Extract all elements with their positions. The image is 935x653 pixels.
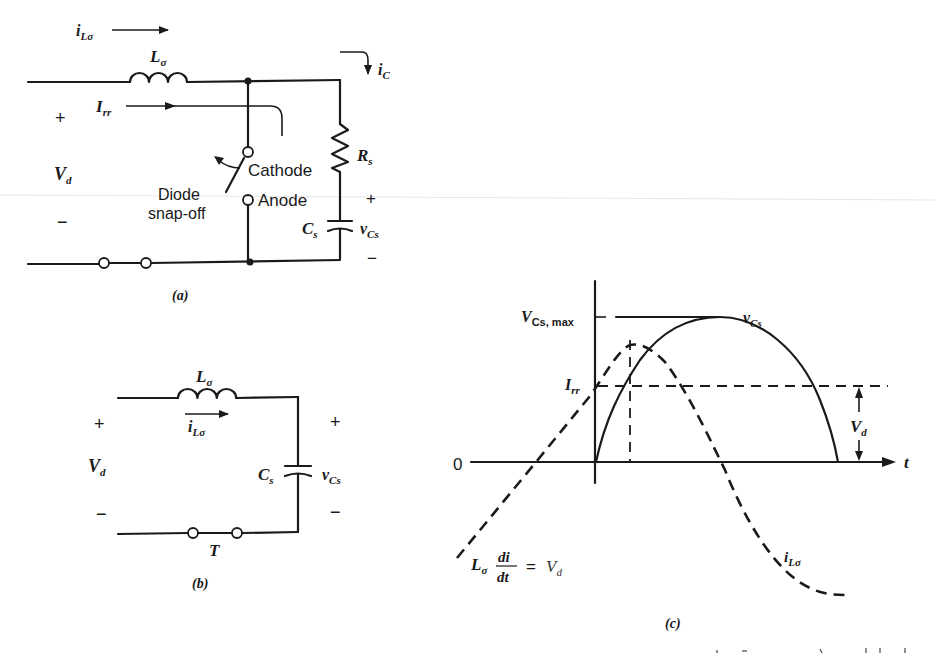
switch-blade (226, 158, 244, 192)
cathode-terminal (243, 147, 253, 157)
label-inductor: Lσ (149, 47, 167, 68)
plus-sign: + (330, 412, 341, 432)
wire (151, 260, 340, 263)
label-capacitor: Cs (258, 465, 274, 486)
wire (187, 80, 340, 82)
inductor-symbol (130, 73, 187, 82)
label-ilsigma-curve: iLσ (784, 549, 802, 568)
label-irr: Irr (564, 376, 581, 396)
label-vd: Vd (88, 456, 106, 478)
plus-sign: + (94, 414, 105, 434)
svg-text:=: = (526, 557, 536, 576)
label-anode: Anode (258, 191, 307, 210)
svg-text:Lσ: Lσ (470, 555, 488, 576)
label-cathode: Cathode (248, 161, 312, 180)
label-vcs: vCs (360, 220, 379, 240)
wire (242, 532, 298, 533)
label-irr: Irr (95, 97, 112, 118)
terminal (188, 528, 198, 538)
arrow-head (855, 451, 863, 461)
irr-current-path (126, 106, 282, 136)
label-diode: Diode (158, 186, 200, 203)
minus-sign: − (367, 249, 377, 268)
svg-text:Vd: Vd (546, 557, 562, 578)
svg-text:dt: dt (497, 569, 510, 585)
label-capacitor: Cs (302, 219, 318, 240)
anode-terminal (243, 195, 253, 205)
label-vd: Vd (54, 164, 72, 186)
caption-a: (a) (172, 288, 188, 304)
current-arrow-ic (340, 52, 368, 74)
vcs-curve (596, 317, 838, 462)
cropped-text-fragments (717, 648, 905, 653)
label-inductor: Lσ (195, 367, 213, 388)
wire (118, 533, 188, 534)
junction-dot (247, 259, 254, 266)
minus-sign: − (57, 212, 68, 232)
inductor-symbol (178, 389, 236, 398)
figure-c-waveforms: t 0 VCs, max Irr vCs iLσ Vd Lσ di dt = V… (453, 281, 910, 632)
label-vcs-curve: vCs (743, 309, 762, 329)
terminal (99, 258, 109, 268)
caption-b: (b) (192, 576, 208, 592)
equation-ldi-dt: Lσ di dt = Vd (470, 549, 562, 585)
label-origin: 0 (453, 455, 462, 474)
arrow-head (855, 387, 863, 398)
minus-sign: − (96, 504, 107, 524)
label-switch-t: T (209, 541, 220, 560)
arrow-head (165, 102, 176, 110)
label-vcs-max: VCs, max (521, 308, 575, 328)
label-resistor: Rs (356, 146, 373, 167)
label-vcs: vCs (322, 466, 341, 486)
label-t: t (904, 453, 910, 472)
svg-text:di: di (498, 549, 511, 565)
plus-sign: + (366, 189, 376, 208)
label-ic: iC (378, 61, 390, 81)
label-vd: Vd (850, 417, 867, 438)
resistor-symbol (332, 124, 348, 172)
terminal (141, 258, 151, 268)
label-snap-off: snap-off (148, 205, 206, 222)
label-ilsigma: iLσ (188, 418, 206, 438)
axis-arrow (882, 457, 896, 467)
terminal (232, 528, 242, 538)
figure-b-circuit: Lσ iLσ + Vd − Cs vCs + − T (b) (88, 367, 341, 592)
plus-sign: + (55, 108, 66, 128)
figure-a-circuit: iLσ Lσ iC Irr + Vd − Cathode Anode Diode… (28, 22, 390, 304)
caption-c: (c) (665, 616, 681, 632)
wire (236, 397, 298, 398)
minus-sign: − (330, 502, 341, 522)
label-ilsigma: iLσ (76, 22, 94, 42)
